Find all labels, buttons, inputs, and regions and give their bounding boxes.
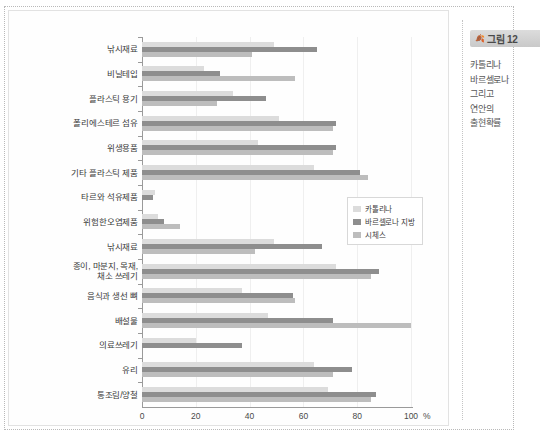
y-axis-tick xyxy=(138,234,142,235)
y-axis-tick xyxy=(138,185,142,186)
y-axis-label-line: 채소 쓰레기 xyxy=(18,271,138,281)
y-axis-label: 비닐테입 xyxy=(18,69,138,79)
bar xyxy=(142,224,180,229)
legend-swatch-icon xyxy=(353,219,361,225)
figure-caption-text: 카톨리나바르셀로나그리고연안의출현확률 xyxy=(470,58,536,131)
y-axis-label: 종이, 마분지, 목재,채소 쓰레기 xyxy=(18,261,138,281)
figure-number-tab: 🍂 그림 12 xyxy=(470,30,540,47)
y-axis-tick xyxy=(138,86,142,87)
y-axis-label: 유리 xyxy=(18,365,138,375)
y-axis-label-line: 유리 xyxy=(18,365,138,375)
legend-swatch-icon xyxy=(353,206,361,212)
chart-legend: 카톨리나 바르셀로나 지방 시체스 xyxy=(347,197,423,245)
bar-group xyxy=(142,62,411,87)
bar xyxy=(142,76,295,81)
y-axis-label-line: 폴리에스테르 섬유 xyxy=(18,118,138,128)
bar xyxy=(142,372,333,377)
bar xyxy=(142,52,252,57)
y-axis-label-line: 낚시재료 xyxy=(18,242,138,252)
y-axis-label: 배설물 xyxy=(18,316,138,326)
caption-line: 카톨리나 xyxy=(470,58,536,73)
leaf-icon: 🍂 xyxy=(475,34,485,43)
y-axis-tick xyxy=(138,210,142,211)
caption-line: 그리고 xyxy=(470,87,536,102)
y-axis-tick xyxy=(138,160,142,161)
legend-item-label: 시체스 xyxy=(365,229,385,240)
y-axis-label: 기타 플라스틱 제품 xyxy=(18,168,138,178)
bar-group xyxy=(142,111,411,136)
y-axis-label-line: 종이, 마분지, 목재, xyxy=(18,261,138,271)
bar xyxy=(142,397,371,402)
figure-number-label: 그림 12 xyxy=(487,31,517,46)
y-axis-label-line: 배설물 xyxy=(18,316,138,326)
y-axis-label: 낚시재료 xyxy=(18,242,138,252)
bar-group xyxy=(142,136,411,161)
legend-item-label: 바르셀로나 지방 xyxy=(365,216,414,227)
bar xyxy=(142,249,255,254)
bar xyxy=(142,195,153,200)
bar-group xyxy=(142,333,411,358)
legend-item: 카톨리나 xyxy=(353,202,417,215)
y-axis-tick xyxy=(138,308,142,309)
y-axis-label-line: 위생용품 xyxy=(18,143,138,153)
x-axis-line xyxy=(142,407,413,408)
x-axis-tick-label: 20 xyxy=(184,411,208,421)
caption-line: 출현확률 xyxy=(470,116,536,131)
y-axis-label: 의료쓰레기 xyxy=(18,340,138,350)
x-axis-tick-label: 40 xyxy=(238,411,262,421)
bar-group xyxy=(142,37,411,62)
legend-item: 바르셀로나 지방 xyxy=(353,215,417,228)
bar xyxy=(142,323,411,328)
y-axis-label: 플라스틱 용기 xyxy=(18,94,138,104)
y-axis-tick xyxy=(138,358,142,359)
caption-line: 연안의 xyxy=(470,102,536,117)
y-axis-tick xyxy=(138,382,142,383)
y-axis-label: 폴리에스테르 섬유 xyxy=(18,118,138,128)
bar xyxy=(142,126,333,131)
bar xyxy=(142,150,333,155)
bar-group xyxy=(142,86,411,111)
y-axis-label: 위험한오염제품 xyxy=(18,217,138,227)
y-axis-label-line: 플라스틱 용기 xyxy=(18,94,138,104)
y-axis-label-line: 비닐테입 xyxy=(18,69,138,79)
y-axis-tick xyxy=(138,111,142,112)
y-axis-label-line: 기타 플라스틱 제품 xyxy=(18,168,138,178)
y-axis-label-line: 통조림/양철 xyxy=(18,390,138,400)
bar-group xyxy=(142,160,411,185)
y-axis-label-line: 의료쓰레기 xyxy=(18,340,138,350)
bar xyxy=(142,343,242,348)
y-axis-tick xyxy=(138,259,142,260)
x-axis-tick-label: 0 xyxy=(130,411,154,421)
y-axis-tick xyxy=(138,136,142,137)
y-axis-tick xyxy=(138,284,142,285)
y-axis-label-line: 위험한오염제품 xyxy=(18,217,138,227)
y-axis-tick xyxy=(138,333,142,334)
legend-item-label: 카톨리나 xyxy=(365,203,392,214)
legend-item: 시체스 xyxy=(353,228,417,241)
x-axis-tick-label: 100 xyxy=(399,411,423,421)
x-axis-tick-label: 60 xyxy=(291,411,315,421)
legend-swatch-icon xyxy=(353,232,361,238)
y-axis-label-line: 음식과 생선 뼈 xyxy=(18,291,138,301)
y-axis-labels: 낚시재료비닐테입플라스틱 용기폴리에스테르 섬유위생용품기타 플라스틱 제품타르… xyxy=(14,37,138,407)
x-axis-unit-label: % xyxy=(423,411,431,421)
y-axis-label: 위생용품 xyxy=(18,143,138,153)
bar-group xyxy=(142,259,411,284)
y-axis-label-line: 낚시재료 xyxy=(18,44,138,54)
x-axis-ticks: 020406080100% xyxy=(9,411,469,425)
bar-group xyxy=(142,382,411,407)
x-axis-tick-label: 80 xyxy=(345,411,369,421)
y-axis-tick xyxy=(138,37,142,38)
y-axis-tick xyxy=(138,62,142,63)
caption-line: 바르셀로나 xyxy=(470,73,536,88)
y-axis-label: 통조림/양철 xyxy=(18,390,138,400)
bar xyxy=(142,175,368,180)
bar-group xyxy=(142,358,411,383)
bar xyxy=(142,298,295,303)
y-axis-label: 음식과 생선 뼈 xyxy=(18,291,138,301)
y-axis-label: 타르와 석유제품 xyxy=(18,192,138,202)
chart-card: 낚시재료비닐테입플라스틱 용기폴리에스테르 섬유위생용품기타 플라스틱 제품타르… xyxy=(8,10,449,426)
bar-group xyxy=(142,284,411,309)
bar xyxy=(142,101,217,106)
